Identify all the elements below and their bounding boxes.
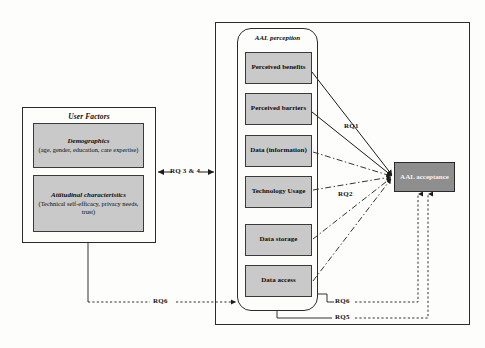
- rq-label-rq6-left: RQ6: [153, 297, 168, 305]
- node-data-storage: Data storage: [245, 224, 312, 256]
- node-label: Perceived barriers: [251, 104, 306, 113]
- node-label: Perceived benefits: [251, 63, 305, 72]
- user-factors-title: User Factors: [23, 112, 155, 121]
- attitudinal-detail: (Technical self-efficacy, privacy needs,…: [34, 200, 143, 216]
- edge-rq6-left: [88, 243, 236, 302]
- node-label: Data storage: [260, 235, 298, 244]
- demographics-detail: (age, gender, education, care expertise): [35, 146, 143, 154]
- demographics-heading: Demographics: [68, 137, 110, 145]
- user-factors-demographics: Demographics (age, gender, education, ca…: [33, 123, 144, 168]
- node-perceived-barriers: Perceived barriers: [245, 93, 312, 125]
- node-label: Data access: [261, 276, 295, 285]
- aal-acceptance-box: AAL acceptance: [394, 162, 455, 192]
- node-perceived-benefits: Perceived benefits: [245, 52, 312, 84]
- node-label: Technology Usage: [252, 187, 306, 196]
- attitudinal-heading: Attitudinal characteristics: [51, 191, 126, 199]
- user-factors-attitudinal: Attitudinal characteristics (Technical s…: [33, 175, 144, 232]
- node-data-access: Data access: [245, 265, 312, 297]
- rq-label-rq2: RQ2: [338, 190, 353, 198]
- rq-label-rq5-right: RQ5: [335, 313, 350, 321]
- node-technology-usage: Technology Usage: [245, 176, 312, 208]
- rq-label-rq34: RQ 3 & 4: [170, 167, 200, 175]
- aal-acceptance-label: AAL acceptance: [400, 173, 449, 181]
- node-data-information: Data (information): [245, 135, 312, 167]
- rq-label-rq6-right: RQ6: [335, 297, 350, 305]
- aal-perception-title: AAL perception: [238, 34, 317, 42]
- rq-label-rq1: RQ1: [344, 122, 359, 130]
- diagram-canvas: User Factors Demographics (age, gender, …: [0, 0, 485, 348]
- node-label: Data (information): [250, 146, 307, 155]
